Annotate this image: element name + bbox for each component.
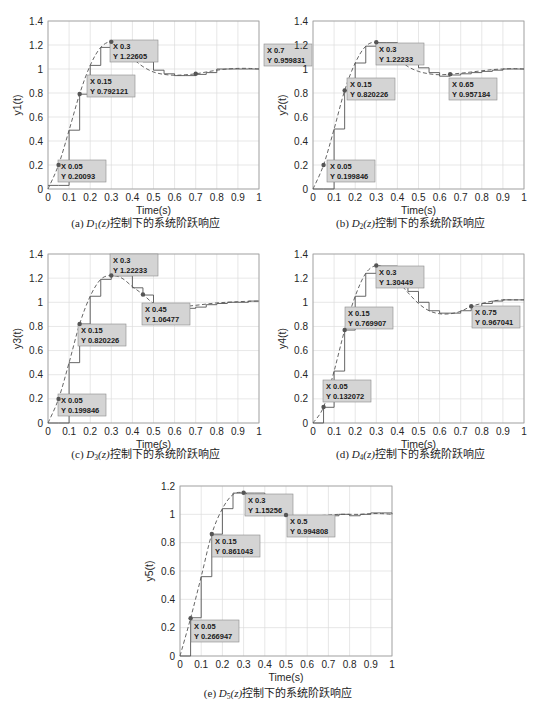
datatip-x-label: X 0.15: [348, 309, 370, 318]
y-tick-label: 1: [37, 297, 43, 308]
datatip: X 0.15Y 0.820226: [77, 322, 126, 346]
datatip-y-label: Y 1.22233: [379, 55, 413, 64]
y-tick-label: 0.8: [294, 88, 308, 99]
datatip-x-label: X 0.05: [326, 382, 348, 391]
datatip-y-label: Y 0.266947: [194, 632, 232, 641]
x-tick-label: 0.9: [364, 659, 378, 670]
x-tick-label: 0.1: [62, 192, 76, 203]
y-tick-label: 0.8: [29, 321, 43, 332]
y-tick-label: 0.6: [294, 345, 308, 356]
datatip-marker: [241, 491, 245, 495]
y-tick-label: 0.4: [294, 136, 308, 147]
x-tick-label: 0.3: [369, 192, 383, 203]
datatip-y-label: Y 0.199846: [61, 406, 99, 415]
y-tick-label: 1: [169, 509, 175, 520]
x-tick-label: 0.3: [104, 192, 118, 203]
x-tick-label: 0.2: [215, 659, 229, 670]
y-tick-label: 0: [37, 418, 43, 429]
x-tick-label: 0.7: [321, 659, 335, 670]
x-tick-label: 0.8: [210, 192, 224, 203]
datatip-y-label: Y 0.994808: [290, 527, 328, 536]
x-tick-label: 0.4: [125, 192, 139, 203]
datatip: X 0.3Y 1.22605: [109, 40, 158, 62]
datatip-y-label: Y 0.967041: [475, 318, 513, 327]
y-tick-label: 0.2: [161, 622, 175, 633]
datatip: X 0.3Y 1.22233: [109, 254, 158, 278]
x-tick-label: 0.5: [147, 192, 161, 203]
datatip-y-label: Y 1.30449: [379, 278, 413, 287]
x-tick-label: 0.6: [168, 192, 182, 203]
y-tick-label: 0: [302, 184, 308, 195]
y-tick-label: 1.2: [294, 40, 308, 51]
chart-panel-b: 00.10.20.30.40.50.60.70.80.9100.20.40.60…: [276, 16, 527, 232]
x-tick-label: 0.6: [300, 659, 314, 670]
datatip-x-label: X 0.3: [113, 256, 131, 265]
datatip: X 0.15Y 0.820226: [342, 78, 395, 100]
caption-suffix: 控制下的系统阶跃响应: [110, 447, 220, 460]
datatip-marker: [469, 304, 473, 308]
y-tick-label: 1.2: [29, 273, 43, 284]
x-tick-label: 0.2: [83, 426, 97, 437]
figure-caption: (e) D5(z)控制下的系统阶跃响应: [204, 686, 352, 701]
datatip-x-label: X 0.3: [379, 268, 397, 277]
x-axis-label: Time(s): [136, 204, 171, 216]
y-axis-label: y5(t): [143, 561, 155, 582]
y-tick-label: 0.8: [161, 537, 175, 548]
x-tick-label: 0.2: [348, 426, 362, 437]
datatip: X 0.05Y 0.266947: [188, 616, 239, 642]
y-axis-label: y2(t): [276, 95, 288, 116]
datatip-marker: [448, 72, 452, 76]
x-tick-label: 0.4: [390, 192, 404, 203]
y-axis-label: y4(t): [276, 328, 288, 349]
caption-z: (z): [363, 217, 375, 230]
datatip-x-label: X 0.3: [379, 45, 397, 54]
datatip-x-label: X 0.7: [267, 46, 285, 55]
x-tick-label: 0.6: [168, 426, 182, 437]
datatip-y-label: Y 0.20093: [61, 172, 95, 181]
x-tick-label: 0.5: [412, 192, 426, 203]
x-tick-labels: 00.10.20.30.40.50.60.70.80.91: [45, 192, 262, 203]
x-axis-label: Time(s): [268, 671, 303, 683]
x-tick-label: 0: [45, 192, 51, 203]
datatip-x-label: X 0.45: [145, 305, 167, 314]
x-tick-label: 1: [521, 192, 527, 203]
x-tick-label: 0.9: [496, 426, 510, 437]
y-tick-labels: 00.20.40.60.811.21.4: [294, 16, 308, 195]
datatip-y-label: Y 0.820226: [81, 336, 119, 345]
datatip-y-label: Y 0.959831: [267, 56, 305, 65]
x-tick-label: 0: [310, 426, 316, 437]
datatip-x-label: X 0.15: [81, 326, 103, 335]
caption-z: (z): [363, 448, 375, 461]
datatip-x-label: X 0.15: [90, 77, 112, 86]
datatip-marker: [374, 263, 378, 267]
datatip: X 0.75Y 0.967041: [469, 304, 520, 328]
caption-controller: D: [85, 448, 94, 460]
y-tick-label: 0.8: [294, 321, 308, 332]
x-tick-label: 1: [521, 426, 527, 437]
datatip-marker: [342, 328, 346, 332]
x-tick-label: 0.8: [475, 192, 489, 203]
y-tick-label: 0: [37, 184, 43, 195]
x-tick-label: 1: [256, 426, 262, 437]
datatip-y-label: Y 1.15256: [248, 506, 282, 515]
y-tick-label: 0.8: [29, 88, 43, 99]
datatip-y-label: Y 0.769907: [348, 319, 386, 328]
y-tick-label: 1: [302, 297, 308, 308]
x-tick-labels: 00.10.20.30.40.50.60.70.80.91: [45, 426, 262, 437]
x-tick-label: 0.1: [194, 659, 208, 670]
figure: 00.10.20.30.40.50.60.70.80.9100.20.40.60…: [0, 0, 542, 710]
chart-panel-a: 00.10.20.30.40.50.60.70.80.9100.20.40.60…: [11, 16, 312, 232]
y-tick-label: 1: [37, 64, 43, 75]
x-tick-labels: 00.10.20.30.40.50.60.70.80.91: [310, 192, 527, 203]
datatip: X 0.05Y 0.199846: [321, 160, 375, 182]
x-tick-label: 0: [45, 426, 51, 437]
y-tick-label: 0.2: [29, 160, 43, 171]
caption-suffix: 控制下的系统阶跃响应: [375, 447, 485, 460]
datatip-marker: [321, 163, 325, 167]
x-tick-label: 0.4: [125, 426, 139, 437]
x-tick-label: 0.2: [348, 192, 362, 203]
x-tick-label: 0.8: [343, 659, 357, 670]
datatip-marker: [321, 405, 325, 409]
caption-controller: D: [85, 217, 94, 229]
y-tick-label: 1.2: [29, 40, 43, 51]
